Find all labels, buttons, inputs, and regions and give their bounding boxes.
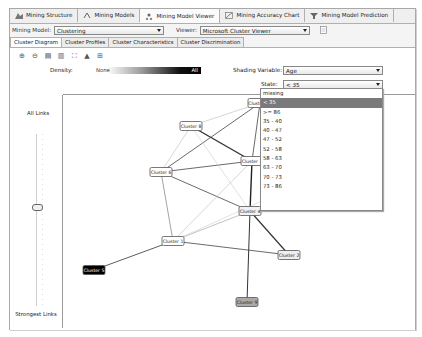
cluster-node-c5[interactable]: Cluster 5 — [83, 266, 105, 275]
cluster-link[interactable] — [161, 126, 191, 172]
state-option[interactable]: < 35 — [261, 98, 382, 107]
state-option[interactable]: 35 - 40 — [261, 117, 382, 126]
state-option[interactable]: 73 - 86 — [261, 182, 382, 191]
cluster-link[interactable] — [250, 161, 252, 211]
cluster-link[interactable] — [247, 211, 250, 302]
state-option[interactable]: missing — [261, 89, 382, 98]
state-option[interactable]: 52 - 58 — [261, 145, 382, 154]
cluster-link[interactable] — [252, 103, 260, 161]
cluster-label: Cluster 1 — [163, 239, 184, 244]
cluster-label: Cluster 6 — [151, 170, 172, 175]
cluster-link[interactable] — [191, 126, 252, 161]
state-option[interactable]: >= 86 — [261, 108, 382, 117]
cluster-node-c2[interactable]: Cluster 2 — [278, 251, 300, 260]
cluster-label: Cluster 9 — [237, 300, 258, 305]
cluster-node-c4[interactable]: Cluster 4 — [239, 207, 261, 216]
cluster-node-c1[interactable]: Cluster 1 — [162, 237, 184, 246]
cluster-link[interactable] — [173, 161, 252, 241]
cluster-link[interactable] — [173, 241, 289, 255]
cluster-link[interactable] — [94, 241, 173, 270]
cluster-link[interactable] — [161, 172, 173, 241]
cluster-node-c9[interactable]: Cluster 9 — [236, 298, 258, 307]
cluster-label: Cluster 5 — [84, 268, 105, 273]
state-option[interactable]: 40 - 47 — [261, 126, 382, 135]
cluster-node-c8[interactable]: Cluster 8 — [180, 122, 202, 131]
state-option[interactable]: 70 - 73 — [261, 173, 382, 182]
cluster-link[interactable] — [173, 211, 250, 241]
cluster-link[interactable] — [250, 211, 289, 255]
cluster-label: Cluster 8 — [181, 124, 202, 129]
state-option[interactable]: 47 - 52 — [261, 135, 382, 144]
cluster-node-c6[interactable]: Cluster 6 — [150, 168, 172, 177]
state-options-list[interactable]: missing< 35>= 8635 - 4040 - 4747 - 5252 … — [260, 88, 383, 211]
state-option[interactable]: 63 - 70 — [261, 163, 382, 172]
cluster-label: Cluster 4 — [240, 209, 261, 214]
state-option[interactable]: 58 - 63 — [261, 154, 382, 163]
cluster-label: Cluster 2 — [279, 253, 300, 258]
